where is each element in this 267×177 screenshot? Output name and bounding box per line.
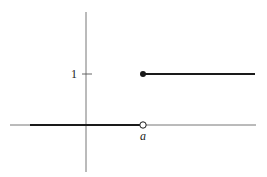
open-circle-endpoint [140, 122, 146, 128]
x-tick-label: a [140, 129, 146, 143]
filled-dot-endpoint [140, 71, 146, 77]
y-tick-label: 1 [71, 67, 77, 81]
step-function-graph: 1 a [0, 0, 267, 177]
